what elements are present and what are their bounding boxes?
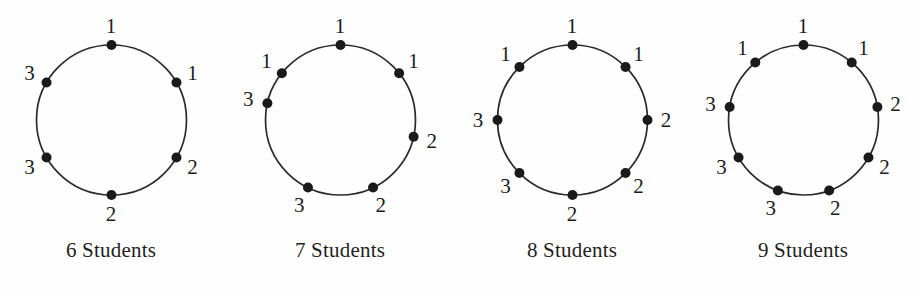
student-count-label: 1 <box>335 16 346 37</box>
student-count-label: 2 <box>376 194 387 215</box>
student-dot <box>262 98 272 108</box>
student-count-label: 3 <box>24 63 35 84</box>
student-dot <box>733 153 743 163</box>
student-count-label: 1 <box>187 63 198 84</box>
student-circle-panel: 112223318 Students <box>458 0 687 293</box>
student-dot <box>171 78 181 88</box>
student-dot <box>724 102 734 112</box>
student-dot <box>408 132 418 142</box>
student-dot <box>106 40 116 50</box>
panel-caption: 7 Students <box>226 238 455 263</box>
student-count-label: 2 <box>879 157 890 178</box>
student-dot <box>276 68 286 78</box>
student-count-label: 2 <box>187 157 198 178</box>
student-count-label: 3 <box>473 110 484 131</box>
student-count-label: 2 <box>661 110 672 131</box>
student-dot <box>798 40 808 50</box>
student-count-label: 1 <box>858 37 869 58</box>
student-dot <box>302 183 312 193</box>
student-count-label: 1 <box>261 51 272 72</box>
student-count-label: 3 <box>705 93 716 114</box>
student-dot <box>863 153 873 163</box>
student-dot <box>41 153 51 163</box>
student-count-label: 1 <box>106 16 117 37</box>
student-dot <box>620 168 630 178</box>
panel-caption: 9 Students <box>689 238 917 263</box>
circle-outline <box>728 45 878 195</box>
circle-outline <box>265 45 415 195</box>
student-dot <box>824 185 834 195</box>
student-count-label: 2 <box>567 204 578 225</box>
student-dot <box>394 68 404 78</box>
student-count-label: 1 <box>633 43 644 64</box>
student-dot <box>567 40 577 50</box>
student-dot <box>514 168 524 178</box>
panel-caption: 6 Students <box>0 238 226 263</box>
student-dot <box>492 115 502 125</box>
student-dot <box>642 115 652 125</box>
student-dot <box>514 62 524 72</box>
student-circle-panel: 1122336 Students <box>0 0 226 293</box>
student-count-label: 1 <box>737 37 748 58</box>
student-count-label: 1 <box>567 16 578 37</box>
student-dot <box>772 185 782 195</box>
student-count-label: 1 <box>798 16 809 37</box>
student-dot <box>567 190 577 200</box>
student-count-label: 2 <box>830 198 841 219</box>
student-dot <box>368 183 378 193</box>
student-count-label: 2 <box>106 204 117 225</box>
student-dot <box>872 102 882 112</box>
student-count-label: 2 <box>426 130 437 151</box>
figure-canvas: 1122336 Students11223317 Students1122233… <box>0 0 917 293</box>
student-dot <box>171 153 181 163</box>
circle-outline <box>36 45 186 195</box>
student-count-label: 2 <box>633 176 644 197</box>
student-dot <box>335 40 345 50</box>
student-count-label: 3 <box>500 176 511 197</box>
student-count-label: 3 <box>243 89 254 110</box>
student-count-label: 2 <box>890 93 901 114</box>
student-dot <box>620 62 630 72</box>
student-circle-panel: 1122233319 Students <box>689 0 917 293</box>
student-count-label: 3 <box>716 157 727 178</box>
student-dot <box>750 58 760 68</box>
student-count-label: 3 <box>294 194 305 215</box>
student-dot <box>106 190 116 200</box>
student-circle-panel: 11223317 Students <box>226 0 455 293</box>
student-dot <box>846 58 856 68</box>
student-count-label: 1 <box>408 51 419 72</box>
student-dot <box>41 78 51 88</box>
student-count-label: 1 <box>500 43 511 64</box>
panel-caption: 8 Students <box>458 238 687 263</box>
student-count-label: 3 <box>24 157 35 178</box>
student-count-label: 3 <box>766 198 777 219</box>
